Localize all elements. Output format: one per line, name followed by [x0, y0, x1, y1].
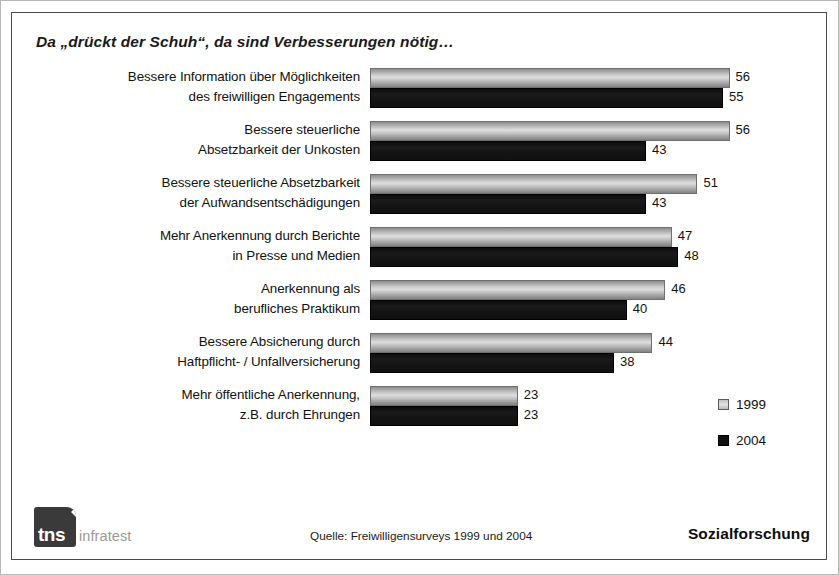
chart-legend: 1999 2004: [718, 396, 808, 468]
bar-pair: 4640: [370, 280, 820, 322]
category-label-line: Bessere Absicherung durch: [12, 332, 360, 352]
category-label-line: Bessere steuerliche: [12, 120, 360, 140]
bar-2004: [370, 88, 723, 108]
bar-1999: [370, 121, 730, 141]
bar-group: Bessere steuerlicheAbsetzbarkeit der Unk…: [12, 121, 828, 163]
bar-pair: 5143: [370, 174, 820, 216]
bar-1999: [370, 333, 652, 353]
category-label-line: der Aufwandsentschädigungen: [12, 193, 360, 213]
category-label: Bessere steuerlicheAbsetzbarkeit der Unk…: [12, 120, 360, 159]
category-label-line: Anerkennung als: [12, 279, 360, 299]
bar-value-label: 23: [524, 387, 538, 402]
bar-value-label: 43: [652, 142, 666, 157]
category-label-line: Mehr Anerkennung durch Berichte: [12, 226, 360, 246]
tns-logo-mark-icon: tns: [34, 507, 76, 547]
bar-1999: [370, 227, 672, 247]
bar-value-label: 43: [652, 195, 666, 210]
category-label: Mehr Anerkennung durch Berichtein Presse…: [12, 226, 360, 265]
category-label: Mehr öffentliche Anerkennung,z.B. durch …: [12, 385, 360, 424]
page-title: Da „drückt der Schuh“, da sind Verbesser…: [36, 33, 454, 51]
brand-line: Sozialforschung: [688, 525, 810, 543]
bar-value-label: 46: [671, 281, 685, 296]
slide-frame: Da „drückt der Schuh“, da sind Verbesser…: [11, 12, 827, 560]
bar-group: Mehr Anerkennung durch Berichtein Presse…: [12, 227, 828, 269]
bar-pair: 5655: [370, 68, 820, 110]
bar-1999: [370, 68, 730, 88]
bar-1999: [370, 386, 518, 406]
bar-value-label: 56: [736, 122, 750, 137]
category-label: Bessere steuerliche Absetzbarkeitder Auf…: [12, 173, 360, 212]
legend-swatch-1999-icon: [718, 399, 729, 410]
bar-2004: [370, 194, 646, 214]
category-label-line: Bessere steuerliche Absetzbarkeit: [12, 173, 360, 193]
category-label-line: Absetzbarkeit der Unkosten: [12, 140, 360, 160]
bar-value-label: 44: [658, 334, 672, 349]
bar-value-label: 47: [678, 228, 692, 243]
category-label: Anerkennung alsberufliches Praktikum: [12, 279, 360, 318]
bar-group: Bessere steuerliche Absetzbarkeitder Auf…: [12, 174, 828, 216]
category-label-line: berufliches Praktikum: [12, 299, 360, 319]
bar-value-label: 51: [703, 175, 717, 190]
bar-value-label: 38: [620, 354, 634, 369]
bar-2004: [370, 406, 518, 426]
bar-2004: [370, 141, 646, 161]
legend-label-2004: 2004: [736, 433, 766, 448]
bar-chart-plot-area: Bessere Information über Möglichkeitende…: [12, 68, 828, 488]
bar-group: Bessere Absicherung durchHaftpflicht- / …: [12, 333, 828, 375]
bar-value-label: 56: [736, 69, 750, 84]
bar-2004: [370, 353, 614, 373]
bar-2004: [370, 300, 627, 320]
legend-label-1999: 1999: [736, 397, 766, 412]
bar-value-label: 48: [684, 248, 698, 263]
category-label: Bessere Information über Möglichkeitende…: [12, 67, 360, 106]
bar-1999: [370, 280, 665, 300]
tns-infratest-logo: tns infratest: [34, 507, 131, 547]
category-label-line: Haftpflicht- / Unfallversicherung: [12, 352, 360, 372]
bar-value-label: 40: [633, 301, 647, 316]
infratest-logo-text: infratest: [79, 528, 131, 544]
category-label-line: des freiwilligen Engagements: [12, 87, 360, 107]
chart-slide: Da „drückt der Schuh“, da sind Verbesser…: [0, 0, 839, 575]
legend-item-1999: 1999: [718, 396, 808, 413]
category-label-line: Mehr öffentliche Anerkennung,: [12, 385, 360, 405]
bar-value-label: 55: [729, 89, 743, 104]
bar-pair: 4748: [370, 227, 820, 269]
slide-footer: tns infratest Quelle: Freiwilligensurvey…: [12, 501, 828, 559]
category-label: Bessere Absicherung durchHaftpflicht- / …: [12, 332, 360, 371]
legend-swatch-2004-icon: [718, 435, 729, 446]
bar-group: Anerkennung alsberufliches Praktikum4640: [12, 280, 828, 322]
bar-pair: 5643: [370, 121, 820, 163]
legend-item-2004: 2004: [718, 432, 808, 449]
category-label-line: Bessere Information über Möglichkeiten: [12, 67, 360, 87]
bar-1999: [370, 174, 697, 194]
tns-logo-text: tns: [38, 525, 65, 544]
bar-group: Bessere Information über Möglichkeitende…: [12, 68, 828, 110]
bar-2004: [370, 247, 678, 267]
category-label-line: in Presse und Medien: [12, 246, 360, 266]
category-label-line: z.B. durch Ehrungen: [12, 405, 360, 425]
bar-pair: 4438: [370, 333, 820, 375]
bar-value-label: 23: [524, 407, 538, 422]
source-note: Quelle: Freiwilligensurveys 1999 und 200…: [310, 529, 532, 543]
bar-group: Mehr öffentliche Anerkennung,z.B. durch …: [12, 386, 828, 428]
